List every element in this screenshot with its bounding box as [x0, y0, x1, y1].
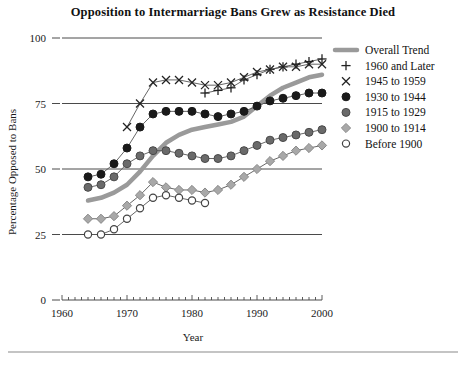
- gridlines: [62, 38, 322, 300]
- series-line: [205, 59, 322, 93]
- series-marker: [226, 180, 235, 189]
- y-tick-label: 100: [30, 32, 47, 44]
- x-axis-ticks: 19601970198019902000: [51, 307, 334, 319]
- series-marker: [318, 126, 326, 134]
- series-marker: [252, 164, 261, 173]
- series-marker: [214, 155, 222, 163]
- x-tick-label: 1960: [51, 307, 74, 319]
- series-marker: [188, 107, 196, 115]
- figure: Opposition to Intermarriage Bans Grew as…: [0, 0, 466, 367]
- series-marker: [84, 173, 92, 181]
- series-marker: [110, 173, 118, 181]
- series-marker: [227, 152, 235, 160]
- series-marker: [109, 212, 118, 221]
- x-tick-label: 1980: [181, 307, 204, 319]
- series-marker: [136, 123, 144, 131]
- series-marker: [227, 110, 235, 118]
- series-marker: [292, 131, 300, 139]
- series-marker: [305, 89, 313, 97]
- series-marker: [162, 107, 170, 115]
- series-marker: [187, 185, 196, 194]
- legend-swatch: [341, 123, 350, 132]
- series-marker: [201, 110, 209, 118]
- series-marker: [318, 89, 326, 97]
- legend-label[interactable]: 1930 to 1944: [365, 91, 426, 103]
- series-marker: [253, 141, 261, 149]
- x-axis-title: Year: [183, 331, 204, 343]
- legend-swatch: [342, 93, 350, 101]
- series-marker: [161, 183, 170, 192]
- series-marker: [97, 231, 104, 238]
- y-tick-label: 0: [41, 294, 47, 306]
- legend-label[interactable]: 1960 and Later: [365, 60, 435, 72]
- series-marker: [162, 192, 169, 199]
- legend-label[interactable]: 1915 to 1929: [365, 106, 426, 118]
- series-marker: [188, 152, 196, 160]
- series-marker: [201, 155, 209, 163]
- series-marker: [110, 226, 117, 233]
- series-marker: [239, 172, 248, 181]
- chart-legend[interactable]: Overall Trend1960 and Later1945 to 19591…: [335, 44, 435, 150]
- series-marker: [279, 134, 287, 142]
- series-marker: [136, 152, 144, 160]
- x-tick-label: 2000: [311, 307, 334, 319]
- x-tick-label: 1970: [116, 307, 139, 319]
- series-marker: [317, 141, 326, 150]
- series-marker: [84, 183, 92, 191]
- series-marker: [292, 92, 300, 100]
- series-marker: [122, 201, 131, 210]
- series-marker: [97, 181, 105, 189]
- series-marker: [200, 188, 209, 197]
- series-marker: [304, 143, 313, 152]
- series-marker: [278, 151, 287, 160]
- legend-label[interactable]: 1945 to 1959: [365, 75, 426, 87]
- series-marker: [110, 160, 118, 168]
- y-axis-title: Percentage Opposed to Bans: [6, 109, 18, 235]
- legend-label[interactable]: Overall Trend: [365, 44, 429, 56]
- series-marker: [240, 147, 248, 155]
- series-marker: [279, 94, 287, 102]
- y-axis-ticks: 0255075100: [30, 32, 61, 306]
- series-marker: [253, 102, 261, 110]
- legend-label[interactable]: 1900 to 1914: [365, 122, 426, 134]
- series-marker: [214, 113, 222, 121]
- series-marker: [83, 214, 92, 223]
- chart-canvas: 0255075100 19601970198019902000 Overall …: [0, 0, 466, 367]
- series-marker: [213, 185, 222, 194]
- series-marker: [175, 107, 183, 115]
- data-series: [83, 54, 326, 238]
- y-tick-label: 75: [35, 98, 47, 110]
- series-marker: [175, 149, 183, 157]
- series-marker: [149, 110, 157, 118]
- series-marker: [265, 157, 274, 166]
- series-marker: [174, 185, 183, 194]
- series-marker: [240, 107, 248, 115]
- series-line: [88, 195, 205, 234]
- series-marker: [305, 128, 313, 136]
- series-marker: [84, 231, 91, 238]
- series-marker: [123, 160, 131, 168]
- series-marker: [136, 205, 143, 212]
- series-marker: [201, 199, 208, 206]
- series-marker: [123, 215, 130, 222]
- series-marker: [162, 147, 170, 155]
- y-tick-label: 50: [35, 163, 47, 175]
- series-marker: [188, 197, 195, 204]
- series-marker: [97, 170, 105, 178]
- series-marker: [266, 97, 274, 105]
- series-marker: [149, 147, 157, 155]
- series-marker: [96, 214, 105, 223]
- series-marker: [149, 194, 156, 201]
- y-tick-label: 25: [35, 229, 47, 241]
- series-marker: [123, 144, 131, 152]
- legend-swatch: [342, 140, 349, 147]
- x-tick-label: 1990: [246, 307, 269, 319]
- series-marker: [175, 194, 182, 201]
- legend-swatch: [342, 108, 350, 116]
- series-marker: [266, 136, 274, 144]
- legend-label[interactable]: Before 1900: [365, 138, 422, 150]
- series-marker: [291, 146, 300, 155]
